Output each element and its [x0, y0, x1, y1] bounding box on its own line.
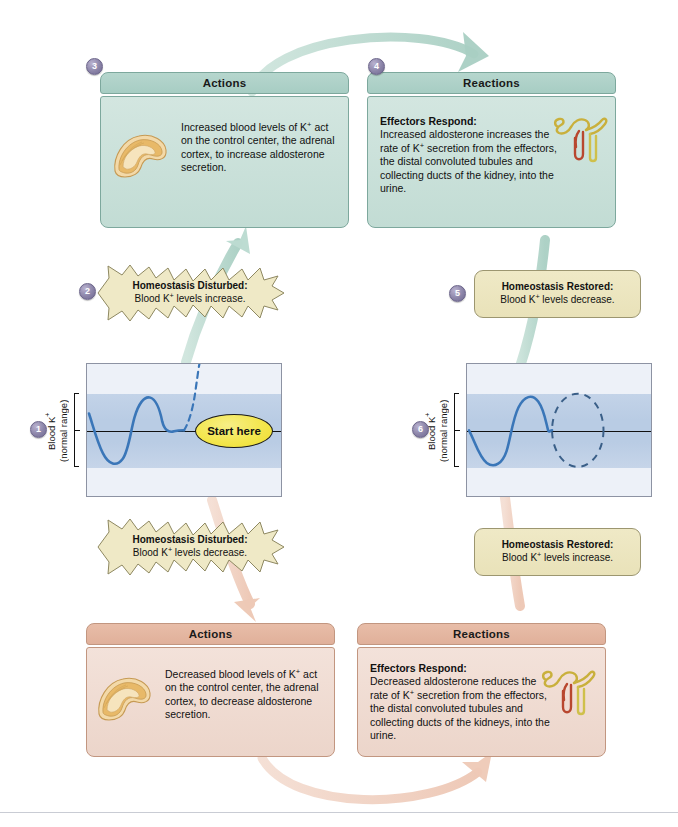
panel-reactions-top-header: Reactions: [367, 72, 616, 94]
diagram-canvas: Actions Increased blood levels of K+ act…: [0, 0, 678, 827]
step-badge-4: 4: [368, 58, 385, 75]
callout-restored-up-lead: Homeostasis Restored:: [502, 539, 614, 552]
step-badge-1: 1: [30, 421, 47, 438]
start-here-bubble[interactable]: Start here: [195, 414, 273, 448]
graph-left-solid-curve: [89, 397, 184, 463]
callout-homeostasis-disturbed-up: Homeostasis Disturbed: Blood K+ levels i…: [92, 262, 288, 324]
panel-reactions-bottom-header: Reactions: [357, 623, 606, 645]
panel-actions-top: Actions Increased blood levels of K+ act…: [100, 72, 349, 228]
starburst-shape-2: [98, 519, 284, 575]
step-badge-2: 2: [79, 283, 96, 300]
panel-reactions-top: Reactions Effectors Respond: Increased a…: [367, 72, 616, 228]
callout-restored-down-label: Homeostasis Restored: Blood K+ levels de…: [475, 271, 640, 317]
graph-left-axis-line1: Blood K+: [46, 412, 57, 449]
panel-actions-bottom-body: Decreased blood levels of K+ act on the …: [86, 647, 335, 757]
adrenal-gland-icon: [109, 127, 171, 179]
panel-actions-bottom: Actions Decreased blood levels of K+ act…: [86, 623, 335, 757]
starburst-shape: [98, 265, 284, 321]
callout-restored-down-detail: Blood K+ levels decrease.: [500, 294, 614, 307]
step-badge-3: 3: [86, 58, 103, 75]
panel-reactions-top-body: Effectors Respond: Increased aldosterone…: [367, 96, 616, 228]
graph-left-axis-line2: (normal range): [58, 400, 69, 462]
graph-left-mid-tick: [74, 430, 80, 431]
graph-left-axis-label: Blood K+: [46, 385, 57, 477]
callout-restored-up-label: Homeostasis Restored: Blood K+ levels in…: [475, 529, 640, 575]
graph-right-solid-curve: [469, 397, 552, 465]
panel-actions-bottom-header: Actions: [86, 623, 335, 645]
graph-right-mid-tick: [454, 430, 460, 431]
page-rule: [0, 812, 678, 813]
graph-left: Start here: [86, 363, 282, 497]
graph-left-dashed-projection: [184, 364, 200, 430]
panel-reactions-top-detail: Increased aldosterone increases the rate…: [380, 128, 557, 194]
panel-reactions-bottom-detail: Decreased aldosterone reduces the rate o…: [370, 675, 550, 741]
adrenal-gland-icon: [93, 670, 155, 722]
step-badge-6: 6: [412, 421, 429, 438]
step-badge-5: 5: [449, 285, 466, 302]
callout-homeostasis-restored-up: Homeostasis Restored: Blood K+ levels in…: [474, 528, 641, 576]
graph-right-curves: [467, 364, 651, 497]
panel-actions-top-body: Increased blood levels of K+ act on the …: [100, 96, 349, 228]
panel-reactions-bottom-text: Effectors Respond: Decreased aldosterone…: [370, 662, 550, 742]
graph-left-axis-sublabel: (normal range): [58, 378, 69, 484]
panel-reactions-bottom: Reactions Effectors Respond: Decreased a…: [357, 623, 606, 757]
graph-right-axis-line2: (normal range): [438, 400, 449, 462]
panel-reactions-bottom-lead: Effectors Respond:: [370, 662, 550, 675]
panel-reactions-top-lead: Effectors Respond:: [380, 115, 560, 128]
panel-reactions-bottom-body: Effectors Respond: Decreased aldosterone…: [357, 647, 606, 757]
graph-right-axis-sublabel: (normal range): [438, 378, 449, 484]
graph-right: [466, 363, 652, 497]
panel-reactions-top-text: Effectors Respond: Increased aldosterone…: [380, 115, 560, 195]
callout-restored-down-lead: Homeostasis Restored:: [502, 281, 614, 294]
callout-homeostasis-disturbed-down: Homeostasis Disturbed: Blood K+ levels d…: [92, 516, 288, 578]
callout-homeostasis-restored-down: Homeostasis Restored: Blood K+ levels de…: [474, 270, 641, 318]
panel-actions-top-header: Actions: [100, 72, 349, 94]
graph-right-dashed-restoration-loop: [552, 394, 603, 467]
panel-actions-top-text: Increased blood levels of K+ act on the …: [181, 121, 341, 175]
arrow-actions-to-reactions-bottom: [262, 752, 492, 800]
callout-restored-up-detail: Blood K+ levels increase.: [502, 552, 613, 565]
panel-actions-bottom-text: Decreased blood levels of K+ act on the …: [165, 668, 329, 722]
